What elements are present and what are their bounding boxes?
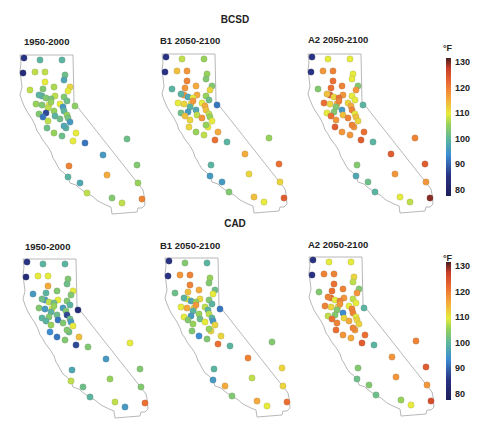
california-station-maps: [0, 0, 485, 424]
station-point: [370, 139, 376, 145]
station-point: [337, 301, 343, 307]
colorbar-tick-label: 90: [455, 363, 465, 373]
colorbar-tick-label: 120: [455, 83, 470, 93]
station-point: [427, 195, 433, 201]
california-outline: [20, 55, 145, 214]
station-point: [242, 151, 248, 157]
station-point: [424, 382, 430, 388]
station-point: [47, 329, 53, 335]
station-point: [347, 56, 353, 62]
station-point: [212, 322, 218, 328]
station-point: [54, 334, 60, 340]
station-point: [137, 366, 143, 372]
colorbar-tick-label: 100: [455, 338, 470, 348]
station-point: [246, 171, 252, 177]
station-point: [64, 98, 70, 104]
station-point: [61, 77, 67, 83]
station-point: [210, 291, 216, 297]
california-outline: [23, 259, 148, 418]
station-point: [330, 78, 336, 84]
station-point: [35, 273, 41, 279]
station-point: [277, 179, 283, 185]
map-panel-cad-2: [165, 258, 290, 417]
station-point: [254, 398, 260, 404]
station-point: [45, 118, 51, 124]
station-point: [179, 56, 185, 62]
station-point: [44, 125, 50, 131]
station-point: [245, 355, 251, 361]
station-point: [187, 117, 193, 123]
station-point: [215, 129, 221, 135]
station-point: [45, 283, 51, 289]
station-point: [332, 124, 338, 130]
station-point: [186, 124, 192, 130]
station-point: [87, 394, 93, 400]
station-point: [135, 180, 141, 186]
station-point: [196, 333, 202, 339]
station-point: [361, 305, 367, 311]
station-point: [24, 259, 30, 265]
station-point: [169, 86, 175, 92]
station-point: [189, 328, 195, 334]
station-point: [408, 402, 414, 408]
station-point: [348, 335, 354, 341]
station-point: [69, 367, 75, 373]
station-point: [349, 76, 355, 82]
station-point: [266, 135, 272, 141]
station-point: [103, 356, 109, 362]
station-point: [201, 132, 207, 138]
station-point: [107, 376, 113, 382]
station-point: [340, 332, 346, 338]
station-point: [51, 303, 57, 309]
station-point: [68, 378, 74, 384]
station-point: [138, 384, 144, 390]
station-point: [326, 259, 332, 265]
station-point: [356, 321, 362, 327]
station-point: [181, 101, 187, 107]
station-point: [331, 271, 337, 277]
station-point: [388, 151, 394, 157]
station-point: [264, 403, 270, 409]
station-point: [423, 179, 429, 185]
station-point: [163, 54, 169, 60]
station-point: [392, 171, 398, 177]
station-point: [324, 91, 330, 97]
station-point: [372, 189, 378, 195]
station-point: [219, 179, 225, 185]
station-point: [407, 199, 413, 205]
station-point: [412, 135, 418, 141]
station-point: [321, 100, 327, 106]
station-point: [208, 162, 214, 168]
station-point: [329, 288, 335, 294]
map-panel-cad-3: [309, 257, 434, 416]
station-point: [36, 305, 42, 311]
station-point: [77, 180, 83, 186]
station-point: [20, 70, 26, 76]
station-point: [184, 68, 190, 74]
station-point: [119, 200, 125, 206]
station-point: [75, 307, 81, 313]
station-point: [184, 78, 190, 84]
station-point: [331, 281, 337, 287]
station-point: [325, 56, 331, 62]
station-point: [222, 383, 228, 389]
station-point: [182, 85, 188, 91]
station-point: [328, 85, 334, 91]
station-point: [109, 195, 115, 201]
station-point: [85, 344, 91, 350]
colorbar-tick-label: 100: [455, 134, 470, 144]
station-point: [207, 173, 213, 179]
map-panel-cad-1: [23, 259, 148, 418]
map-panel-bcsd-1: [20, 55, 145, 214]
station-point: [349, 122, 355, 128]
station-point: [48, 99, 54, 105]
station-point: [393, 374, 399, 380]
colorbar-tick-label: 90: [455, 159, 465, 169]
colorbar-tick-label: 120: [455, 287, 470, 297]
station-point: [206, 280, 212, 286]
station-point: [261, 199, 267, 205]
station-point: [66, 163, 72, 169]
station-point: [175, 100, 181, 106]
station-point: [193, 129, 199, 135]
station-point: [32, 69, 38, 75]
